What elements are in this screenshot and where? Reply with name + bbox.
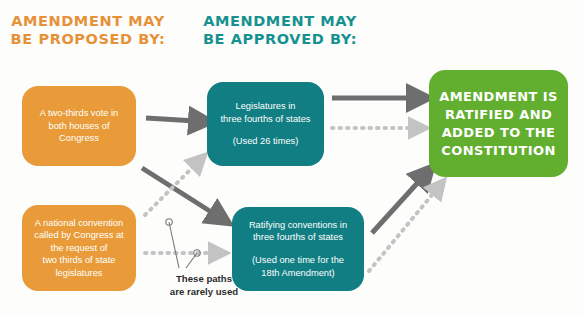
- arrow-ratifying-conventions-to-ratified: [372, 178, 422, 233]
- annotation-leader-lines: [166, 219, 200, 268]
- box-line: CONSTITUTION: [441, 142, 555, 160]
- box-line: A national convention: [35, 217, 123, 230]
- box-line: three fourths of states: [253, 231, 343, 244]
- box-line: called by Congress at: [34, 229, 123, 242]
- box-line: A two-thirds vote in: [40, 107, 119, 120]
- box-line: two thirds of state: [43, 254, 116, 267]
- box-line: Legislatures in: [236, 100, 296, 113]
- box-usage-note: (Used one time for the: [252, 254, 344, 267]
- box-amendment-ratified[interactable]: AMENDMENT IS RATIFIED AND ADDED TO THE C…: [429, 70, 568, 177]
- box-line: Congress: [59, 132, 99, 145]
- amendment-process-diagram: AMENDMENT MAY BE PROPOSED BY: AMENDMENT …: [0, 0, 584, 317]
- arrow-convention-to-legislatures-dotted: [145, 164, 196, 215]
- annotation-line: are rarely used: [152, 286, 256, 299]
- box-line: RATIFIED AND: [445, 106, 552, 124]
- box-congress-two-thirds-vote[interactable]: A two-thirds vote in both houses of Cong…: [22, 86, 136, 166]
- box-line: three fourths of states: [221, 113, 311, 126]
- box-line: AMENDMENT IS: [439, 88, 558, 106]
- box-state-legislatures[interactable]: Legislatures in three fourths of states …: [207, 82, 324, 166]
- heading-amendment-may-be-proposed-by: AMENDMENT MAY BE PROPOSED BY:: [8, 12, 168, 48]
- box-line: Ratifying conventions in: [249, 219, 347, 232]
- box-line: ADDED TO THE: [442, 124, 556, 142]
- box-usage-note: (Used 26 times): [233, 135, 299, 148]
- box-usage-note: 18th Amendment): [261, 267, 334, 280]
- box-line: both houses of: [49, 120, 110, 133]
- box-line: legislatures: [55, 267, 102, 280]
- annotation-rarely-used-paths: These paths are rarely used: [152, 273, 256, 298]
- arrow-congress-to-legislatures: [146, 118, 196, 121]
- box-line: the request of: [51, 242, 108, 255]
- heading-amendment-may-be-approved-by: AMENDMENT MAY BE APPROVED BY:: [196, 12, 364, 48]
- annotation-line: These paths: [152, 273, 256, 286]
- box-national-convention[interactable]: A national convention called by Congress…: [22, 205, 136, 291]
